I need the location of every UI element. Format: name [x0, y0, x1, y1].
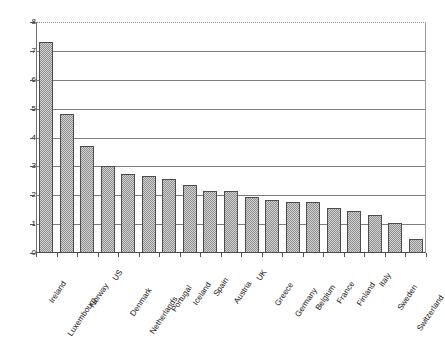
x-tick-mark [36, 253, 37, 257]
bar-slot [262, 22, 283, 253]
bar-slot [36, 22, 57, 253]
x-axis-label-finland: Finland [355, 281, 377, 308]
x-tick-mark [77, 253, 78, 257]
bar-uk[interactable] [245, 197, 259, 253]
bar-norway[interactable] [80, 146, 94, 253]
x-tick-mark [118, 253, 119, 257]
bar-slot [77, 22, 98, 253]
y-tick-mark-2 [30, 195, 35, 196]
x-tick-mark [426, 253, 427, 257]
bar-slot [282, 22, 303, 253]
bar-slot [385, 22, 406, 253]
bar-slot [323, 22, 344, 253]
plot-area [36, 22, 426, 253]
x-tick-mark [221, 253, 222, 257]
x-tick-mark [139, 253, 140, 257]
bar-germany[interactable] [286, 202, 300, 253]
x-tick-mark [262, 253, 263, 257]
bar-finland[interactable] [347, 211, 361, 253]
bar-slot [405, 22, 426, 253]
x-axis-label-sweden: Sweden [396, 283, 420, 312]
bar-greece[interactable] [265, 200, 279, 253]
x-tick-mark [57, 253, 58, 257]
x-axis-label-austria: Austria [232, 280, 253, 306]
y-tick-mark-3 [30, 166, 35, 167]
x-axis-label-germany: Germany [293, 286, 319, 318]
x-tick-mark [364, 253, 365, 257]
bar-italy[interactable] [368, 215, 382, 253]
bar-france[interactable] [327, 208, 341, 253]
bar-iceland[interactable] [183, 185, 197, 253]
bar-slot [118, 22, 139, 253]
x-axis-label-uk: UK [254, 268, 268, 282]
bar-luxembourg[interactable] [60, 114, 74, 253]
x-tick-mark [159, 253, 160, 257]
y-tick-mark-6 [30, 80, 35, 81]
x-tick-mark [344, 253, 345, 257]
bar-slot [364, 22, 385, 253]
bar-denmark[interactable] [121, 174, 135, 253]
x-axis-label-spain: Spain [212, 276, 231, 298]
bar-slot [303, 22, 324, 253]
x-tick-mark [323, 253, 324, 257]
bar-belgium[interactable] [306, 202, 320, 253]
bar-slot [98, 22, 119, 253]
x-axis-label-denmark: Denmark [129, 286, 155, 318]
bar-austria[interactable] [224, 191, 238, 253]
x-tick-mark [405, 253, 406, 257]
x-axis-label-us: US [111, 268, 125, 282]
x-tick-mark [241, 253, 242, 257]
x-axis-label-iceland: Iceland [191, 280, 213, 306]
x-tick-mark [385, 253, 386, 257]
x-axis-label-ireland: Ireland [47, 279, 68, 304]
bar-slot [221, 22, 242, 253]
y-tick-mark-8 [30, 22, 35, 23]
y-tick-mark-5 [30, 109, 35, 110]
bars-layer [36, 22, 426, 253]
x-tick-mark [200, 253, 201, 257]
bar-sweden[interactable] [388, 223, 402, 253]
x-axis-label-belgium: Belgium [314, 283, 338, 312]
bar-slot [241, 22, 262, 253]
y-tick-mark-0 [30, 253, 35, 254]
x-axis-label-greece: Greece [273, 281, 295, 308]
y-tick-mark-4 [30, 138, 35, 139]
x-axis-label-france: France [335, 280, 356, 306]
bar-netherlands[interactable] [142, 176, 156, 253]
x-tick-mark [282, 253, 283, 257]
x-axis-label-switzerland: Switzerland [415, 293, 445, 332]
bar-slot [200, 22, 221, 253]
y-tick-mark-7 [30, 51, 35, 52]
bar-slot [180, 22, 201, 253]
y-tick-mark-1 [30, 224, 35, 225]
x-axis-label-norway: Norway [88, 281, 111, 309]
bar-slot [159, 22, 180, 253]
x-tick-mark [303, 253, 304, 257]
x-axis-label-italy: Italy [377, 271, 393, 288]
x-tick-mark [180, 253, 181, 257]
bar-switzerland[interactable] [409, 239, 423, 253]
bar-spain[interactable] [203, 191, 217, 253]
bar-slot [344, 22, 365, 253]
bar-slot [139, 22, 160, 253]
bar-ireland[interactable] [39, 42, 53, 253]
bar-portugal[interactable] [162, 179, 176, 253]
bar-slot [57, 22, 78, 253]
bar-us[interactable] [101, 166, 115, 253]
x-tick-mark [98, 253, 99, 257]
y-axis: 012345678 [0, 22, 36, 253]
